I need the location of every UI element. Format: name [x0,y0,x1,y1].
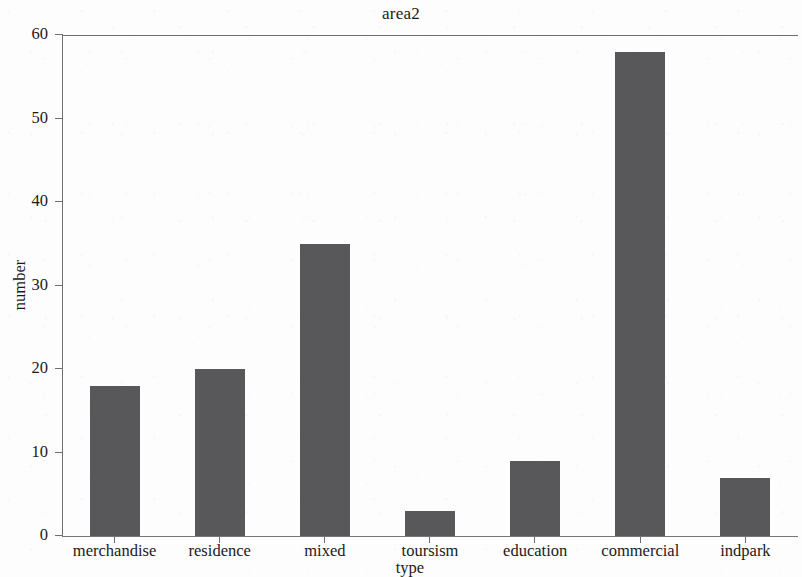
y-tick-label: 10 [2,444,48,461]
plot-top-border [62,35,798,36]
x-tick-label: residence [189,542,251,560]
x-tick-label: indpark [720,542,770,560]
y-tick-mark [55,285,63,286]
x-axis-title: type [355,558,465,577]
bar [90,386,140,536]
y-axis-line [62,35,63,537]
y-tick-mark [55,535,63,536]
x-tick-label: commercial [601,542,679,560]
chart-title: area2 [0,4,802,24]
y-tick-label: 50 [2,110,48,127]
y-tick-mark [55,201,63,202]
bar [195,369,245,536]
x-tick-label: mixed [304,542,345,560]
y-tick-mark [55,34,63,35]
y-axis-title: number [10,239,30,331]
bar [720,478,770,536]
y-tick-label: 60 [2,26,48,43]
bar [615,52,665,536]
y-tick-label: 20 [2,360,48,377]
bar [510,461,560,536]
x-tick-label: education [503,542,567,560]
bar [405,511,455,536]
x-tick-label: merchandise [73,542,156,560]
y-tick-mark [55,118,63,119]
y-tick-label: 0 [2,527,48,544]
y-tick-label: 40 [2,193,48,210]
bar-chart: area2 0102030405060 merchandiseresidence… [0,0,802,577]
bar [300,244,350,536]
y-tick-mark [55,452,63,453]
y-tick-mark [55,368,63,369]
